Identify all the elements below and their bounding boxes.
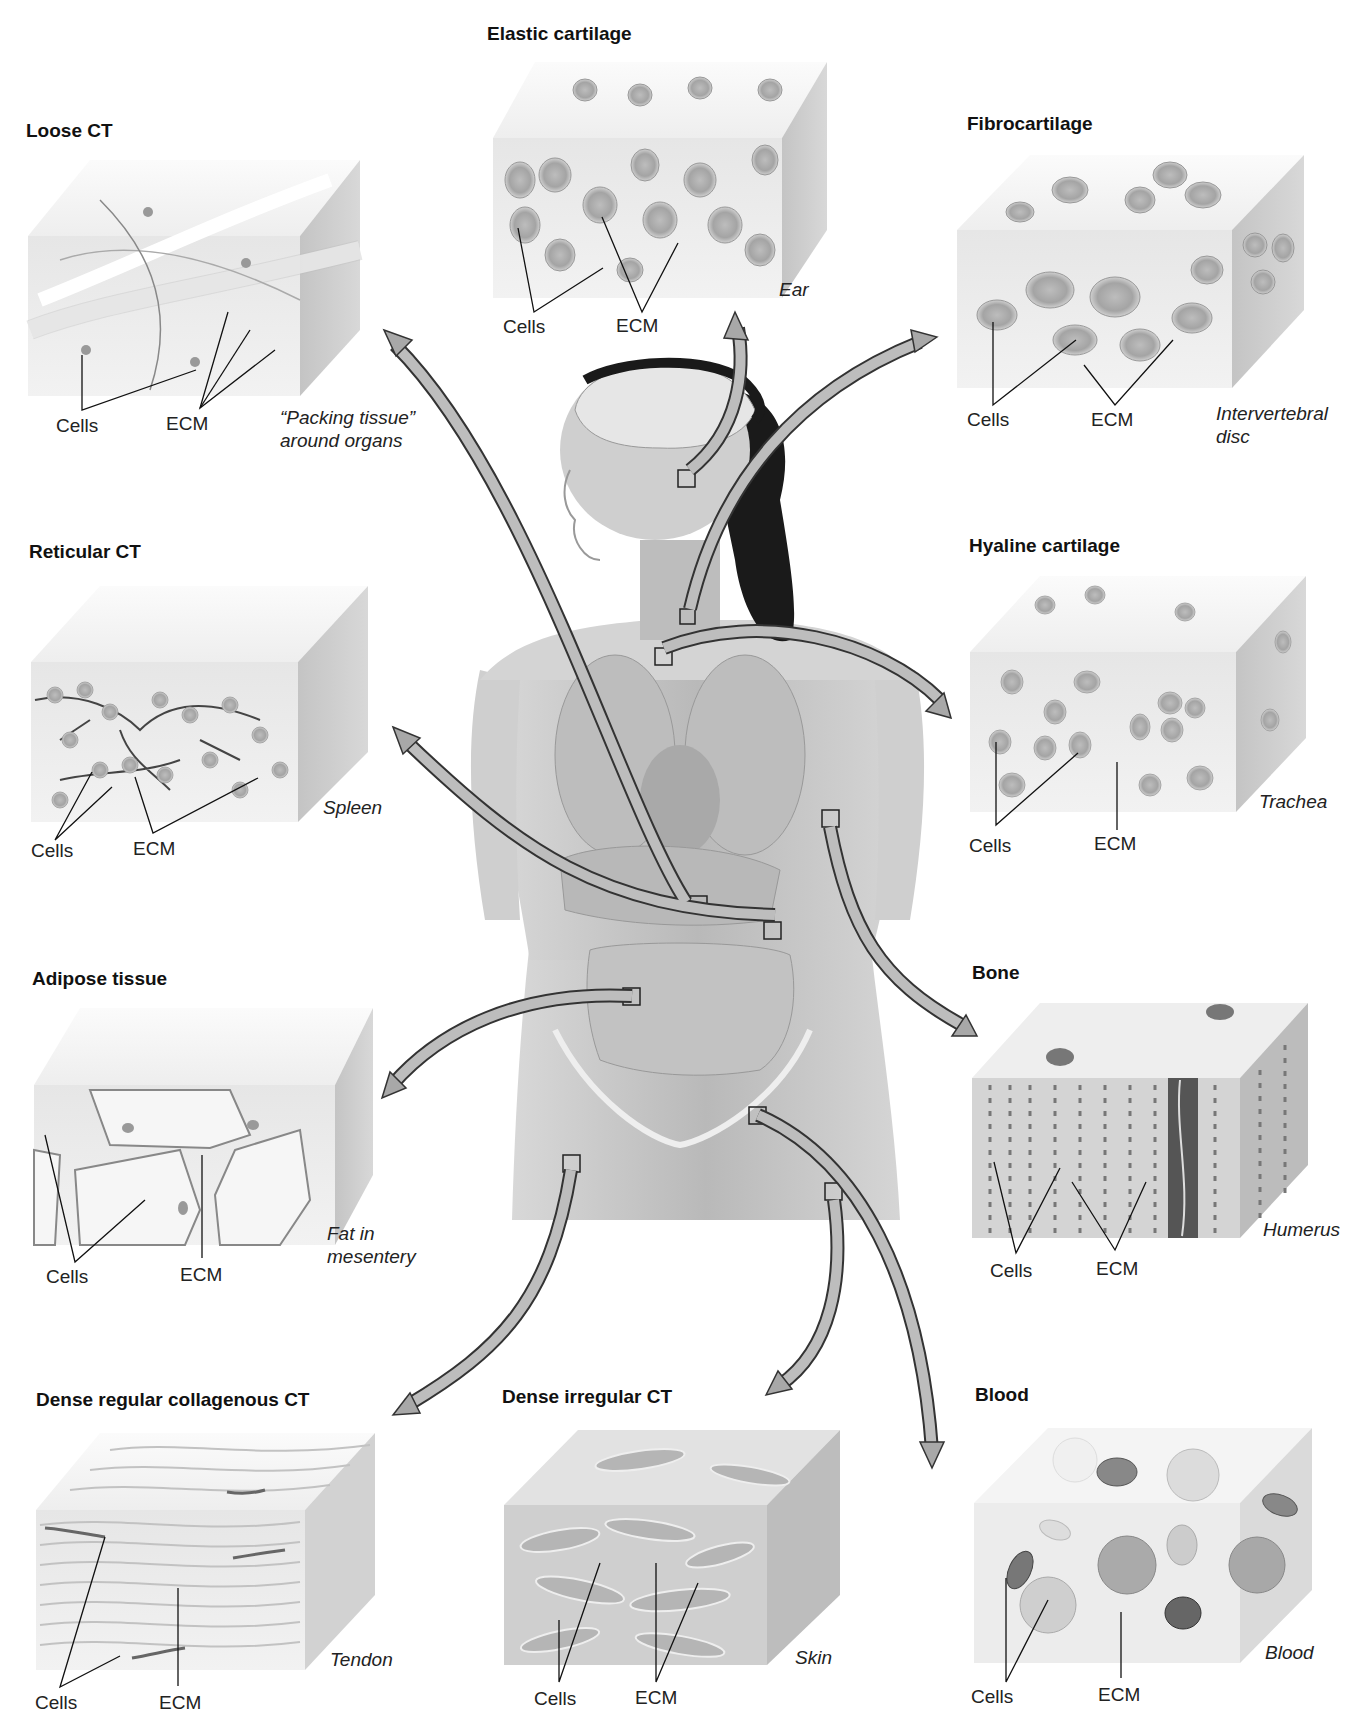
- ecm-label: ECM: [635, 1687, 677, 1709]
- cells-label: Cells: [534, 1688, 576, 1710]
- location-label: Intervertebral disc: [1216, 402, 1346, 448]
- location-label: Ear: [779, 278, 809, 301]
- location-label: Blood: [1265, 1641, 1314, 1664]
- panel-title: Fibrocartilage: [967, 113, 1093, 135]
- ecm-label: ECM: [1094, 833, 1136, 855]
- ecm-label: ECM: [1096, 1258, 1138, 1280]
- cells-label: Cells: [967, 409, 1009, 431]
- location-label: Skin: [795, 1646, 832, 1669]
- ecm-label: ECM: [180, 1264, 222, 1286]
- panel-title: Blood: [975, 1384, 1029, 1406]
- diagram-canvas: [0, 0, 1360, 1726]
- ecm-label: ECM: [616, 315, 658, 337]
- cells-label: Cells: [56, 415, 98, 437]
- panel-title: Hyaline cartilage: [969, 535, 1120, 557]
- cells-label: Cells: [990, 1260, 1032, 1282]
- location-label: Humerus: [1263, 1218, 1340, 1241]
- ecm-label: ECM: [166, 413, 208, 435]
- ecm-label: ECM: [1091, 409, 1133, 431]
- ecm-label: ECM: [159, 1692, 201, 1714]
- location-label: “Packing tissue” around organs: [280, 406, 430, 452]
- bone-block: [972, 1003, 1308, 1238]
- panel-title: Loose CT: [26, 120, 113, 142]
- location-label: Tendon: [330, 1648, 393, 1671]
- blood-block: [974, 1428, 1312, 1663]
- cells-label: Cells: [46, 1266, 88, 1288]
- fibrocartilage-block: [957, 155, 1304, 388]
- hyaline-cartilage-block: [970, 576, 1306, 812]
- dense-irregular-ct-block: [504, 1430, 840, 1665]
- dense-regular-ct-block: [36, 1433, 375, 1670]
- panel-title: Dense regular collagenous CT: [36, 1389, 309, 1411]
- panel-title: Bone: [972, 962, 1020, 984]
- cells-label: Cells: [969, 835, 1011, 857]
- reticular-ct-block: [31, 586, 368, 822]
- cells-label: Cells: [971, 1686, 1013, 1708]
- panel-title: Adipose tissue: [32, 968, 167, 990]
- location-label: Fat in mesentery: [327, 1222, 437, 1268]
- elastic-cartilage-block: [493, 62, 827, 298]
- cells-label: Cells: [31, 840, 73, 862]
- ecm-label: ECM: [1098, 1684, 1140, 1706]
- panel-title: Elastic cartilage: [487, 23, 632, 45]
- human-figure: [471, 360, 924, 1220]
- location-label: Trachea: [1259, 790, 1327, 813]
- location-label: Spleen: [323, 796, 382, 819]
- panel-title: Reticular CT: [29, 541, 141, 563]
- adipose-tissue-block: [34, 1008, 373, 1245]
- ecm-label: ECM: [133, 838, 175, 860]
- loose-ct-block: [28, 160, 360, 396]
- cells-label: Cells: [503, 316, 545, 338]
- cells-label: Cells: [35, 1692, 77, 1714]
- panel-title: Dense irregular CT: [502, 1386, 672, 1408]
